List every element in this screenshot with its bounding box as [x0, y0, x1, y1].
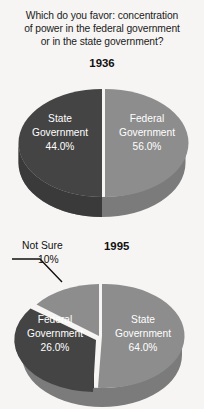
pie-1995-label-federal-name: Federal: [38, 314, 73, 325]
pie-1936-label-federal-value: 56.0%: [133, 141, 162, 152]
pie-1936-label-state-name2: Government: [32, 127, 88, 138]
question-line-1: Which do you favor: concentration: [0, 9, 204, 22]
poll-figure: Which do you favor: concentration of pow…: [0, 0, 204, 409]
pie-1995-label-state-name2: Government: [115, 328, 171, 339]
callout-not-sure-name: Not Sure: [22, 240, 98, 253]
pie-1936-label-federal-name2: Government: [119, 127, 175, 138]
pie-1936-label-state-name: State: [48, 113, 72, 124]
pie-1995-label-federal-value: 26.0%: [41, 342, 70, 353]
pie-1936-label-federal-name: Federal: [130, 113, 165, 124]
pie-1995-label-state-name: State: [131, 314, 155, 325]
pie-1995-label-federal-name2: Government: [27, 328, 83, 339]
chart-title-1995: 1995: [104, 240, 152, 252]
question-text: Which do you favor: concentration of pow…: [0, 9, 204, 48]
pie-chart-1995: Federal Government 26.0% State Governmen…: [0, 258, 204, 409]
question-line-3: or in the state government?: [0, 35, 204, 48]
chart-title-1936: 1936: [0, 57, 204, 69]
pie-1995-label-state-value: 64.0%: [129, 342, 158, 353]
pie-chart-1936: State Government 44.0% Federal Governmen…: [0, 72, 204, 217]
pie-1936-label-state-value: 44.0%: [46, 141, 75, 152]
question-line-2: of power in the federal government: [0, 22, 204, 35]
callout-leader-line: [12, 259, 62, 282]
